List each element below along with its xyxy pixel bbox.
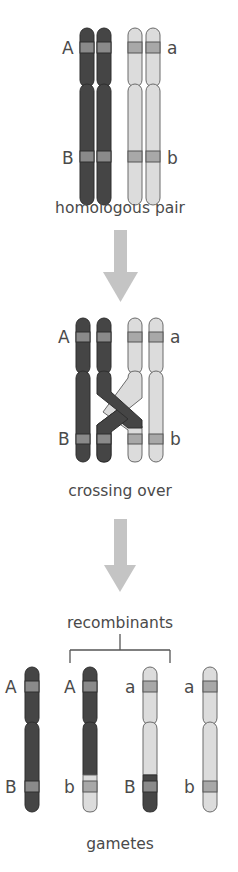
dark-chromatid-outer xyxy=(76,318,90,462)
down-arrow-icon xyxy=(103,230,138,302)
gamete-chromosome-AB: A B xyxy=(5,667,39,812)
gametes-group: A B A b a B a b xyxy=(5,667,217,853)
recombinants-label: recombinants xyxy=(67,614,173,632)
homologous-pair-caption: homologous pair xyxy=(55,199,185,217)
crossing-over-caption: crossing over xyxy=(68,482,172,500)
allele-label-a: a xyxy=(125,677,135,697)
light-chromatid-1 xyxy=(128,28,142,205)
light-chromatid-2 xyxy=(146,28,160,205)
gametes-caption: gametes xyxy=(86,835,154,853)
allele-label-b: b xyxy=(64,777,75,797)
allele-label-B: B xyxy=(124,777,136,797)
allele-label-a: a xyxy=(184,677,194,697)
down-arrow-icon xyxy=(104,519,136,592)
meiosis-crossing-over-diagram: A B a b homologous pair xyxy=(0,0,238,872)
recombinants-bracket xyxy=(70,634,170,663)
allele-label-a: a xyxy=(167,38,177,58)
allele-label-B: B xyxy=(62,148,74,168)
gamete-chromosome-Ab: A b xyxy=(64,667,97,812)
allele-label-A: A xyxy=(64,677,76,697)
allele-label-A: A xyxy=(5,677,17,697)
allele-label-B: B xyxy=(5,777,17,797)
allele-label-B: B xyxy=(58,429,70,449)
allele-label-b: b xyxy=(167,148,178,168)
dark-chromatid-2 xyxy=(97,28,111,205)
allele-label-a: a xyxy=(170,327,180,347)
light-chromatid-outer xyxy=(149,318,163,462)
homologous-pair-group: A B a b homologous pair xyxy=(55,28,185,217)
dark-chromatid-1 xyxy=(80,28,94,205)
gamete-chromosome-aB: a B xyxy=(124,667,157,812)
allele-label-b: b xyxy=(170,429,181,449)
crossing-over-group: A B a b crossing over xyxy=(58,318,181,500)
allele-label-b: b xyxy=(184,777,195,797)
allele-label-A: A xyxy=(62,38,74,58)
allele-label-A: A xyxy=(58,327,70,347)
gamete-chromosome-ab: a b xyxy=(184,667,217,812)
